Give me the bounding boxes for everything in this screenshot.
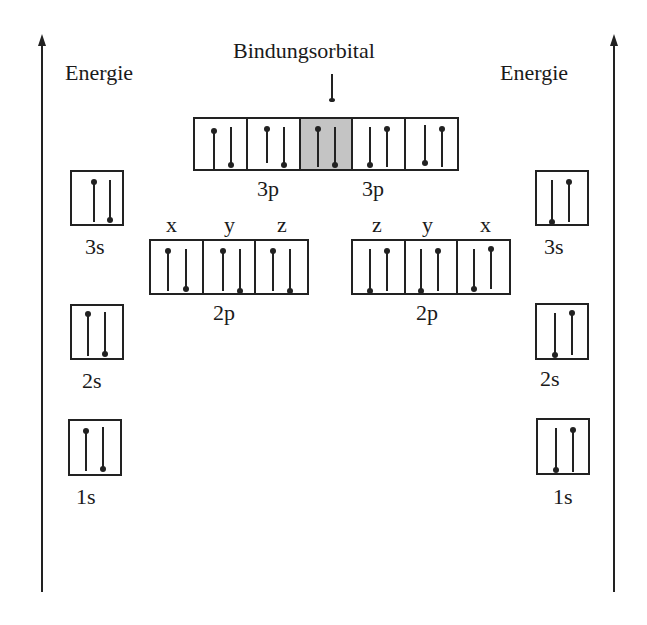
axis-arrow-left-icon xyxy=(38,34,46,46)
left-2p-axis-y: y xyxy=(224,214,235,236)
right-orbital-2p-row xyxy=(351,239,511,295)
spin-down-arrow-icon xyxy=(554,313,556,355)
energy-label-left: Energie xyxy=(65,62,133,84)
spin-down-arrow-icon xyxy=(104,312,106,354)
right-orbital-3s-label: 3s xyxy=(544,236,564,258)
spin-up-arrow-icon xyxy=(272,251,274,291)
left-orbital-3s xyxy=(70,170,124,226)
left-2p-cell-x xyxy=(151,241,204,293)
spin-down-arrow-icon xyxy=(424,125,426,163)
spin-up-arrow-icon xyxy=(572,430,574,472)
spin-up-arrow-icon xyxy=(87,314,89,356)
spin-up-arrow-icon xyxy=(386,251,388,291)
spin-down-arrow-icon xyxy=(473,249,475,289)
left-orbital-2s xyxy=(70,304,124,360)
spin-down-arrow-icon xyxy=(185,249,187,289)
energy-axis-left xyxy=(41,40,43,592)
left-orbital-2p-row xyxy=(149,239,309,295)
right-orbital-2p-label: 2p xyxy=(416,302,438,324)
right-orbital-3s xyxy=(535,170,589,226)
spin-down-arrow-icon xyxy=(230,127,232,165)
left-2p-axis-x: x xyxy=(166,214,177,236)
energy-axis-right xyxy=(613,40,615,592)
orbital-3p-cell-1 xyxy=(195,119,248,169)
bonding-pointer-line xyxy=(331,74,333,100)
left-2p-cell-z xyxy=(256,241,307,293)
spin-up-arrow-icon xyxy=(568,182,570,222)
spin-up-arrow-icon xyxy=(437,251,439,291)
orbital-3p-row xyxy=(193,117,459,171)
bonding-orbital-title: Bindungsorbital xyxy=(233,40,375,62)
orbital-3p-cell-5 xyxy=(406,119,457,169)
spin-down-arrow-icon xyxy=(334,127,336,165)
spin-down-arrow-icon xyxy=(551,180,553,222)
right-2p-axis-x: x xyxy=(480,214,491,236)
spin-up-arrow-icon xyxy=(441,129,443,167)
spin-down-arrow-icon xyxy=(369,249,371,291)
spin-down-arrow-icon xyxy=(555,428,557,470)
left-2p-cell-y xyxy=(204,241,257,293)
spin-down-arrow-icon xyxy=(289,249,291,291)
right-orbital-2s-label: 2s xyxy=(540,368,560,390)
spin-up-arrow-icon xyxy=(571,313,573,355)
right-orbital-2s xyxy=(535,303,589,360)
orbital-3p-label-right: 3p xyxy=(362,178,384,200)
bonding-pointer-tip-icon xyxy=(329,98,335,102)
spin-down-arrow-icon xyxy=(109,180,111,220)
spin-up-arrow-icon xyxy=(93,182,95,222)
left-orbital-1s-label: 1s xyxy=(76,486,96,508)
spin-down-arrow-icon xyxy=(239,249,241,291)
spin-down-arrow-icon xyxy=(420,249,422,291)
left-orbital-2s-label: 2s xyxy=(82,370,102,392)
left-orbital-3s-label: 3s xyxy=(85,236,105,258)
spin-up-arrow-icon xyxy=(85,431,87,471)
spin-down-arrow-icon xyxy=(283,127,285,165)
right-2p-axis-y: y xyxy=(422,214,433,236)
left-orbital-1s xyxy=(68,419,122,476)
orbital-3p-label-left: 3p xyxy=(257,178,279,200)
orbital-3p-cell-bonding xyxy=(301,119,354,169)
right-2p-cell-x xyxy=(458,241,509,293)
spin-up-arrow-icon xyxy=(222,251,224,291)
spin-up-arrow-icon xyxy=(213,131,215,169)
right-2p-axis-z: z xyxy=(372,214,382,236)
right-orbital-1s xyxy=(536,418,590,475)
orbital-3p-cell-2 xyxy=(248,119,301,169)
right-orbital-1s-label: 1s xyxy=(553,486,573,508)
spin-down-arrow-icon xyxy=(102,427,104,469)
right-2p-cell-z xyxy=(353,241,406,293)
axis-arrow-right-icon xyxy=(610,34,618,46)
spin-up-arrow-icon xyxy=(386,129,388,167)
spin-up-arrow-icon xyxy=(266,129,268,163)
spin-up-arrow-icon xyxy=(167,251,169,291)
spin-up-arrow-icon xyxy=(490,249,492,289)
spin-down-arrow-icon xyxy=(369,127,371,165)
left-orbital-2p-label: 2p xyxy=(213,302,235,324)
right-2p-cell-y xyxy=(406,241,459,293)
spin-up-arrow-icon xyxy=(317,129,319,167)
orbital-3p-cell-4 xyxy=(353,119,406,169)
energy-label-right: Energie xyxy=(500,62,568,84)
left-2p-axis-z: z xyxy=(277,214,287,236)
